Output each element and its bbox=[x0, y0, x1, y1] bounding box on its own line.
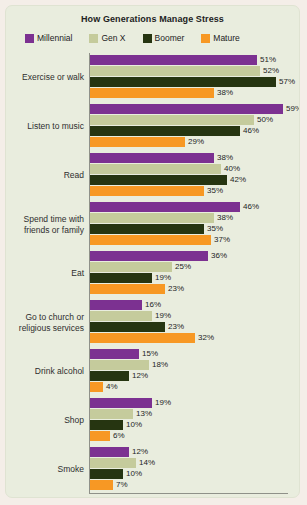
bar-row: 35% bbox=[90, 224, 288, 234]
category-label: Smoke bbox=[6, 464, 89, 474]
bar-value-label: 40% bbox=[224, 164, 240, 174]
bar-value-label: 51% bbox=[260, 55, 276, 65]
category-label: Shop bbox=[6, 415, 89, 425]
category-label: Go to church or religious services bbox=[6, 312, 89, 332]
bar-millennial bbox=[90, 202, 240, 212]
bar-value-label: 29% bbox=[188, 137, 204, 147]
bar-row: 57% bbox=[90, 77, 295, 87]
legend-label: Gen X bbox=[101, 33, 125, 43]
category-bars: 38%40%42%35% bbox=[89, 151, 288, 200]
genx-swatch-icon bbox=[89, 34, 98, 43]
bar-row: 16% bbox=[90, 300, 288, 310]
chart-group: Go to church or religious services16%19%… bbox=[6, 298, 288, 347]
bar-row: 50% bbox=[90, 115, 300, 125]
bar-value-label: 35% bbox=[207, 186, 223, 196]
legend-item-millennial: Millennial bbox=[25, 33, 72, 43]
category-label: Spend time with friends or family bbox=[6, 214, 89, 234]
legend-label: Boomer bbox=[155, 33, 185, 43]
bar-row: 19% bbox=[90, 311, 288, 321]
bar-value-label: 59% bbox=[286, 104, 300, 114]
bar-row: 19% bbox=[90, 273, 288, 283]
bar-boomer bbox=[90, 224, 204, 234]
bar-millennial bbox=[90, 153, 214, 163]
bar-value-label: 38% bbox=[217, 213, 233, 223]
bar-row: 7% bbox=[90, 480, 288, 490]
bar-millennial bbox=[90, 398, 152, 408]
legend-label: Millennial bbox=[37, 33, 72, 43]
bar-row: 51% bbox=[90, 55, 295, 65]
bar-mature bbox=[90, 431, 110, 441]
bar-millennial bbox=[90, 447, 129, 457]
bar-row: 32% bbox=[90, 333, 288, 343]
bar-row: 10% bbox=[90, 469, 288, 479]
bar-gen-x bbox=[90, 458, 136, 468]
bar-gen-x bbox=[90, 115, 254, 125]
chart-groups: Exercise or walk51%52%57%38%Listen to mu… bbox=[6, 53, 288, 494]
bar-value-label: 23% bbox=[168, 284, 184, 294]
bar-value-label: 7% bbox=[116, 480, 128, 490]
bar-value-label: 35% bbox=[207, 224, 223, 234]
legend-item-genx: Gen X bbox=[89, 33, 125, 43]
bar-row: 59% bbox=[90, 104, 300, 114]
bar-row: 12% bbox=[90, 371, 288, 381]
bar-mature bbox=[90, 480, 113, 490]
bar-millennial bbox=[90, 104, 283, 114]
bar-chart: Exercise or walk51%52%57%38%Listen to mu… bbox=[6, 53, 288, 494]
bar-value-label: 57% bbox=[279, 77, 295, 87]
bar-value-label: 12% bbox=[132, 447, 148, 457]
category-bars: 46%38%35%37% bbox=[89, 200, 288, 249]
bar-row: 38% bbox=[90, 153, 288, 163]
bar-mature bbox=[90, 333, 195, 343]
bar-row: 42% bbox=[90, 175, 288, 185]
bar-mature bbox=[90, 284, 165, 294]
bar-value-label: 37% bbox=[214, 235, 230, 245]
category-bars: 15%18%12%4% bbox=[89, 347, 288, 396]
bar-row: 46% bbox=[90, 202, 288, 212]
chart-group: Eat36%25%19%23% bbox=[6, 249, 288, 298]
chart-group: Smoke12%14%10%7% bbox=[6, 445, 288, 494]
legend: Millennial Gen X Boomer Mature bbox=[25, 33, 299, 43]
bar-millennial bbox=[90, 251, 208, 261]
x-axis-line bbox=[89, 493, 288, 494]
bar-row: 15% bbox=[90, 349, 288, 359]
bar-value-label: 42% bbox=[230, 175, 246, 185]
bar-gen-x bbox=[90, 311, 152, 321]
chart-group: Listen to music59%50%46%29% bbox=[6, 102, 288, 151]
bar-millennial bbox=[90, 55, 257, 65]
bar-value-label: 46% bbox=[243, 126, 259, 136]
bar-row: 13% bbox=[90, 409, 288, 419]
bar-row: 12% bbox=[90, 447, 288, 457]
bar-value-label: 46% bbox=[243, 202, 259, 212]
bar-value-label: 32% bbox=[198, 333, 214, 343]
bar-value-label: 52% bbox=[263, 66, 279, 76]
category-bars: 16%19%23%32% bbox=[89, 298, 288, 347]
bar-mature bbox=[90, 137, 185, 147]
bar-value-label: 14% bbox=[139, 458, 155, 468]
bar-value-label: 18% bbox=[152, 360, 168, 370]
bar-boomer bbox=[90, 77, 276, 87]
bar-row: 19% bbox=[90, 398, 288, 408]
category-label: Exercise or walk bbox=[6, 72, 89, 82]
bar-mature bbox=[90, 382, 103, 392]
bar-gen-x bbox=[90, 262, 172, 272]
bar-row: 35% bbox=[90, 186, 288, 196]
category-bars: 51%52%57%38% bbox=[89, 53, 295, 102]
bar-gen-x bbox=[90, 409, 133, 419]
category-bars: 59%50%46%29% bbox=[89, 102, 300, 151]
category-label: Read bbox=[6, 170, 89, 180]
category-label: Listen to music bbox=[6, 121, 89, 131]
legend-item-mature: Mature bbox=[201, 33, 239, 43]
bar-row: 25% bbox=[90, 262, 288, 272]
bar-mature bbox=[90, 88, 214, 98]
bar-gen-x bbox=[90, 164, 221, 174]
legend-item-boomer: Boomer bbox=[143, 33, 185, 43]
y-axis-line bbox=[89, 53, 90, 494]
bar-value-label: 19% bbox=[155, 398, 171, 408]
bar-value-label: 38% bbox=[217, 153, 233, 163]
bar-value-label: 13% bbox=[136, 409, 152, 419]
chart-group: Shop19%13%10%6% bbox=[6, 396, 288, 445]
bar-mature bbox=[90, 235, 211, 245]
legend-label: Mature bbox=[213, 33, 239, 43]
chart-group: Read38%40%42%35% bbox=[6, 151, 288, 200]
bar-value-label: 12% bbox=[132, 371, 148, 381]
